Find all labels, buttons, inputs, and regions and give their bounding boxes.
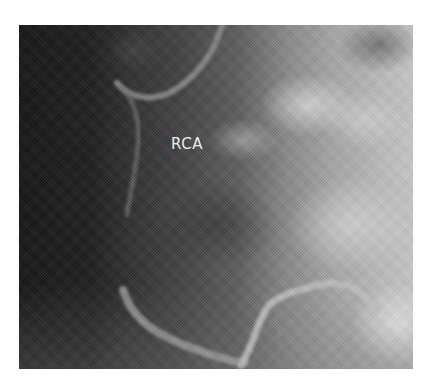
image-grain <box>19 25 413 369</box>
vessel-label-rca: RCA <box>171 135 203 153</box>
angiogram-image <box>19 25 413 369</box>
